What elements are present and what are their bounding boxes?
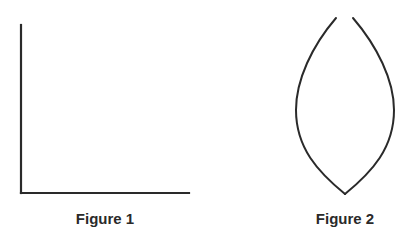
figure-2-right-arc — [345, 18, 394, 194]
figure-1-shape — [21, 25, 189, 193]
figure-2-left-arc — [296, 18, 345, 194]
figure-1-caption: Figure 1 — [76, 210, 134, 227]
figure-2-shape — [296, 18, 394, 194]
diagram-canvas — [0, 0, 415, 240]
figure-2-caption: Figure 2 — [316, 210, 374, 227]
